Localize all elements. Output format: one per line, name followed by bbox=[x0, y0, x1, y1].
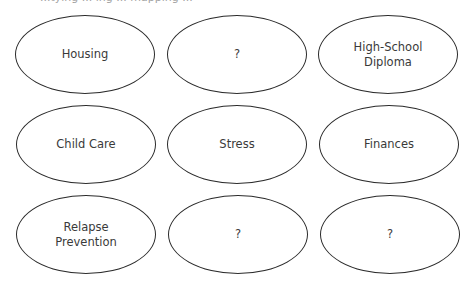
node-unknown-1: ? bbox=[167, 15, 307, 94]
node-high-school-diploma: High-School Diploma bbox=[318, 15, 458, 94]
node-unknown-3: ? bbox=[320, 195, 460, 274]
node-label: ? bbox=[224, 47, 250, 62]
clipped-caption-text: ...tying ... ing ... mapping ... bbox=[40, 0, 193, 4]
node-relapse-prevention: Relapse Prevention bbox=[16, 195, 156, 274]
node-label: Child Care bbox=[46, 137, 125, 152]
node-stress: Stress bbox=[167, 105, 307, 184]
node-label: Relapse Prevention bbox=[45, 220, 126, 250]
node-child-care: Child Care bbox=[16, 105, 156, 184]
node-housing: Housing bbox=[15, 15, 155, 94]
node-label: Finances bbox=[354, 137, 424, 152]
node-label: Housing bbox=[52, 47, 119, 62]
node-unknown-2: ? bbox=[168, 195, 308, 274]
node-label: High-School Diploma bbox=[344, 40, 433, 70]
node-label: ? bbox=[377, 227, 403, 242]
node-finances: Finances bbox=[319, 105, 459, 184]
node-label: ? bbox=[225, 227, 251, 242]
node-label: Stress bbox=[209, 137, 264, 152]
